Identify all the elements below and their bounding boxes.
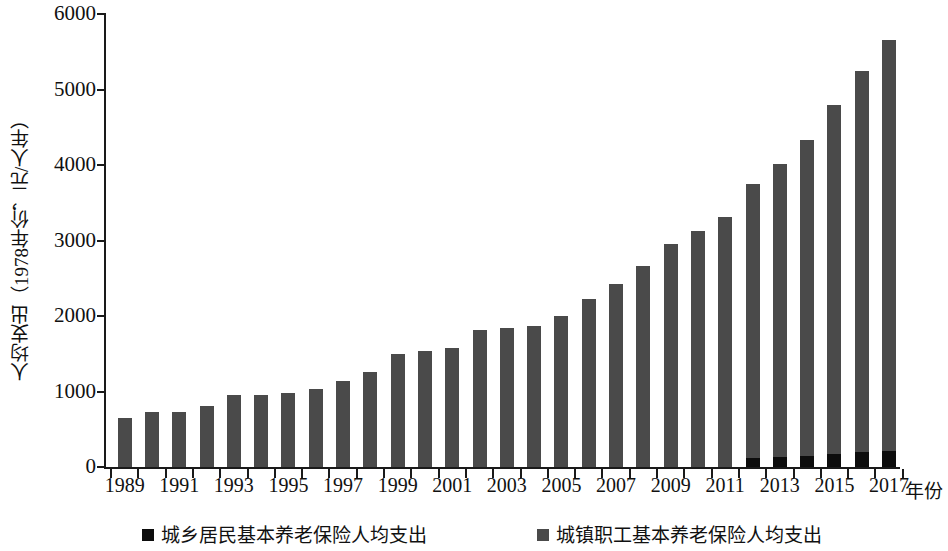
legend-item-residents[interactable]: 城乡居民基本养老保险人均支出 [142,520,427,547]
bar-column[interactable] [200,406,214,467]
bar-column[interactable] [118,418,132,467]
bar-column[interactable] [418,351,432,467]
bar-segment-urban-employees [500,328,514,467]
bar-segment-urban-employees [473,330,487,467]
bar-column[interactable] [664,244,678,467]
bar-segment-urban-employees [773,164,787,458]
y-axis-tick-mark [97,13,106,15]
y-axis-tick-label: 0 [38,456,96,477]
x-axis-tick-label: 1999 [368,474,428,496]
bar-column[interactable] [746,184,760,467]
bar-column[interactable] [773,164,787,468]
chart-legend: 城乡居民基本养老保险人均支出 城镇职工基本养老保险人均支出 [0,520,948,551]
bar-segment-rural-residents [827,454,841,467]
bar-column[interactable] [363,372,377,467]
bar-segment-rural-residents [746,458,760,467]
bar-column[interactable] [227,395,241,467]
bar-column[interactable] [391,354,405,467]
y-axis-tick-label: 1000 [38,381,96,402]
y-axis-tick-mark [97,391,106,393]
bar-segment-urban-employees [200,406,214,467]
bar-segment-urban-employees [691,231,705,467]
bar-column[interactable] [855,71,869,467]
bar-segment-urban-employees [800,140,814,456]
legend-label-employees: 城镇职工基本养老保险人均支出 [556,520,822,547]
bar-segment-urban-employees [582,299,596,467]
bar-column[interactable] [636,266,650,467]
bar-segment-urban-employees [636,266,650,467]
bar-segment-urban-employees [118,418,132,467]
bar-segment-urban-employees [391,354,405,467]
bar-segment-urban-employees [882,40,896,451]
bar-segment-urban-employees [227,395,241,467]
legend-label-residents: 城乡居民基本养老保险人均支出 [161,520,427,547]
x-axis-tick-label: 2015 [804,474,864,496]
bar-segment-rural-residents [855,452,869,467]
bar-column[interactable] [145,412,159,467]
bar-column[interactable] [554,316,568,467]
bar-segment-urban-employees [527,326,541,467]
y-axis-line [104,14,106,469]
x-axis-tick-label: 1997 [313,474,373,496]
bar-column[interactable] [718,217,732,467]
bar-column[interactable] [882,40,896,467]
x-axis-tick-label: 2009 [641,474,701,496]
bar-column[interactable] [473,330,487,467]
legend-item-employees[interactable]: 城镇职工基本养老保险人均支出 [537,520,822,547]
x-axis-tick-label: 1989 [95,474,155,496]
bar-column[interactable] [827,105,841,467]
bar-segment-urban-employees [554,316,568,467]
y-axis-tick-mark [97,466,106,468]
x-axis-line [104,467,900,469]
x-axis-tick-label: 1991 [149,474,209,496]
bar-segment-urban-employees [281,393,295,467]
bar-segment-urban-employees [718,217,732,467]
bar-column[interactable] [445,348,459,467]
y-axis-tick-mark [97,164,106,166]
bar-segment-urban-employees [145,412,159,467]
bar-segment-urban-employees [363,372,377,467]
x-axis-tick-label: 2003 [477,474,537,496]
y-axis-tick-label: 5000 [38,79,96,100]
bar-column[interactable] [172,412,186,467]
y-axis-tick-label: 3000 [38,230,96,251]
bar-column[interactable] [582,299,596,467]
bar-segment-urban-employees [172,412,186,467]
y-axis-tick-mark [97,89,106,91]
bar-column[interactable] [281,393,295,467]
y-axis-tick-label: 6000 [38,3,96,24]
plot-area [104,14,900,469]
bar-column[interactable] [527,326,541,467]
y-axis-tick-labels: 0100020003000400050006000 [34,0,96,490]
x-axis-tick-label: 1995 [258,474,318,496]
bar-segment-urban-employees [609,284,623,467]
x-axis-tick-labels: 1989199119931995199719992001200320052007… [104,474,948,504]
bar-segment-urban-employees [855,71,869,452]
y-axis-tick-mark [97,315,106,317]
bar-segment-urban-employees [827,105,841,455]
x-axis-tick-label: 2007 [586,474,646,496]
bar-segment-urban-employees [418,351,432,467]
bar-segment-urban-employees [746,184,760,458]
bar-column[interactable] [609,284,623,467]
bar-column[interactable] [309,389,323,467]
bar-segment-rural-residents [882,451,896,467]
bar-segment-urban-employees [254,395,268,467]
y-axis-title: 人均支出（1978年价，元/人年） [6,0,36,490]
y-axis-tick-label: 4000 [38,154,96,175]
x-axis-tick-label: 2013 [750,474,810,496]
bar-column[interactable] [336,381,350,467]
y-axis-tick-mark [97,240,106,242]
bar-segment-urban-employees [664,244,678,467]
legend-swatch-residents-icon [142,529,154,541]
bar-column[interactable] [691,231,705,467]
bar-segment-urban-employees [445,348,459,467]
x-axis-tick-label: 2001 [422,474,482,496]
bar-column[interactable] [500,328,514,467]
bar-column[interactable] [254,395,268,467]
legend-swatch-employees-icon [537,529,549,541]
x-axis-title: 年份 [905,476,943,503]
x-axis-tick-label: 2005 [531,474,591,496]
bar-column[interactable] [800,140,814,467]
y-axis-tick-label: 2000 [38,305,96,326]
